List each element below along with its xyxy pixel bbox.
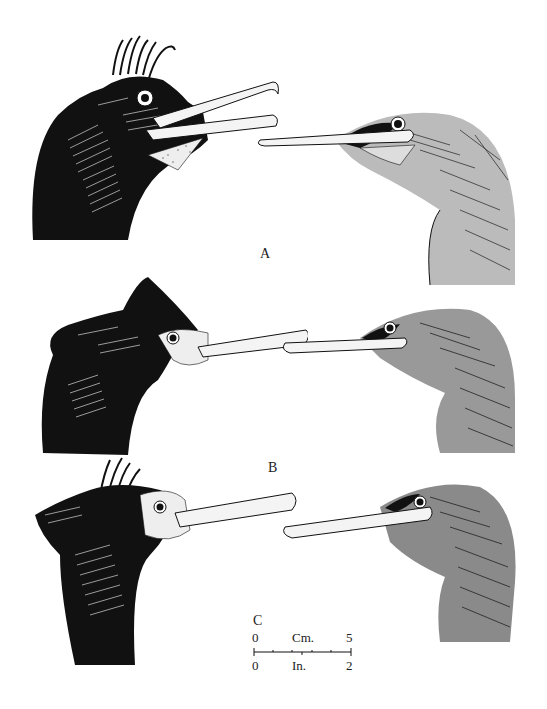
illustration-plate: A B bbox=[0, 0, 547, 709]
head-a-right bbox=[250, 90, 530, 290]
scale-in-end: 2 bbox=[346, 658, 353, 674]
head-b-right bbox=[280, 298, 530, 458]
panel-label-a: A bbox=[260, 246, 270, 262]
head-a-left bbox=[28, 30, 283, 240]
head-b-left bbox=[38, 275, 308, 460]
head-c-left bbox=[30, 455, 300, 670]
scale-in-unit: In. bbox=[292, 658, 306, 674]
scale-bar-line bbox=[252, 647, 357, 657]
scale-cm-unit: Cm. bbox=[292, 630, 314, 646]
scale-cm-start: 0 bbox=[252, 630, 259, 646]
scale-cm-end: 5 bbox=[346, 630, 353, 646]
scale-in-start: 0 bbox=[252, 658, 259, 674]
head-c-right bbox=[280, 472, 530, 652]
panel-label-c: C bbox=[253, 613, 262, 629]
